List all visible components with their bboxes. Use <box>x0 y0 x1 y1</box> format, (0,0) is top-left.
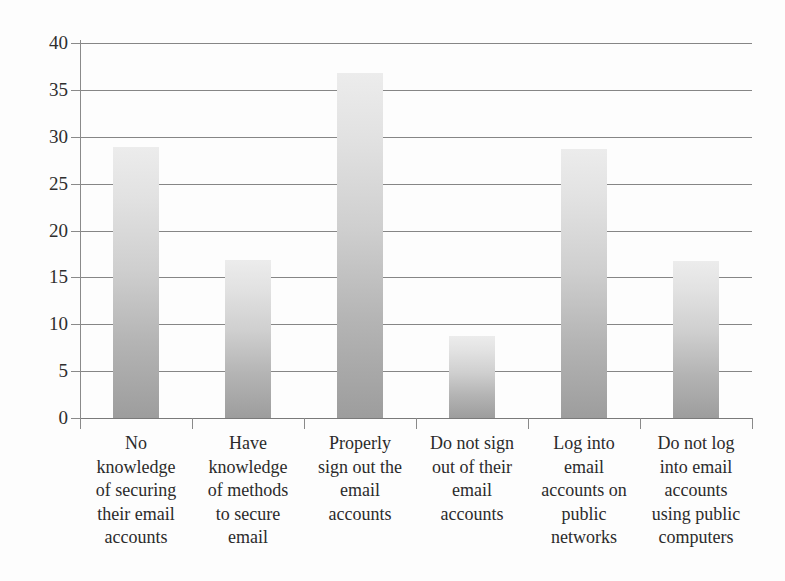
bar-chart: 0510152025303540 Noknowledgeof securingt… <box>0 0 785 581</box>
y-tick-15 <box>71 277 80 278</box>
x-axis-label-line: using public <box>640 503 752 527</box>
x-tick-1 <box>192 418 193 429</box>
bar-slot <box>192 43 304 418</box>
y-tick-25 <box>71 184 80 185</box>
x-axis-label-line: Do not log <box>640 432 752 456</box>
x-axis-label-line: of methods <box>192 479 304 503</box>
y-tick-0 <box>71 418 80 419</box>
y-tick-label-25: 25 <box>6 174 68 193</box>
y-tick-label-30: 30 <box>6 127 68 146</box>
y-tick-5 <box>71 371 80 372</box>
x-axis-label-line: computers <box>640 526 752 550</box>
y-tick-40 <box>71 43 80 44</box>
y-tick-label-40: 40 <box>6 33 68 52</box>
x-axis-ticks <box>80 418 752 430</box>
x-axis-label-line: email <box>416 479 528 503</box>
x-axis-label-line: Have <box>192 432 304 456</box>
y-tick-label-15: 15 <box>6 267 68 286</box>
x-axis-label-line: to secure <box>192 503 304 527</box>
x-tick-6 <box>752 418 753 429</box>
x-axis-label-line: accounts <box>304 503 416 527</box>
x-tick-4 <box>528 418 529 429</box>
bar-slot <box>80 43 192 418</box>
y-tick-label-20: 20 <box>6 221 68 240</box>
x-axis-label-line: into email <box>640 456 752 480</box>
x-axis-label-line: Properly <box>304 432 416 456</box>
bar-slot <box>640 43 752 418</box>
x-axis-label-line: sign out the <box>304 456 416 480</box>
x-axis-label-line: of securing <box>80 479 192 503</box>
x-tick-2 <box>304 418 305 429</box>
x-axis-label-line: No <box>80 432 192 456</box>
y-tick-20 <box>71 231 80 232</box>
bar <box>225 260 271 418</box>
bar-slot <box>416 43 528 418</box>
x-axis-label: Properlysign out theemailaccounts <box>304 432 416 526</box>
x-axis-label-line: Do not sign <box>416 432 528 456</box>
x-axis-label-line: knowledge <box>192 456 304 480</box>
bar <box>673 261 719 419</box>
x-axis-label: Haveknowledgeof methodsto secureemail <box>192 432 304 550</box>
y-axis-labels: 0510152025303540 <box>0 0 68 581</box>
x-axis-labels: Noknowledgeof securingtheir emailaccount… <box>80 432 752 562</box>
x-axis-label-line: accounts <box>416 503 528 527</box>
y-tick-label-0: 0 <box>6 408 68 427</box>
x-axis-label-line: their email <box>80 503 192 527</box>
bar <box>337 73 383 418</box>
bars-layer <box>80 43 752 418</box>
x-axis-label-line: knowledge <box>80 456 192 480</box>
x-axis-label-line: accounts <box>640 479 752 503</box>
bar-slot <box>304 43 416 418</box>
x-axis-label-line: out of their <box>416 456 528 480</box>
x-tick-5 <box>640 418 641 429</box>
x-axis-label-line: Log into <box>528 432 640 456</box>
x-axis-label-line: email <box>304 479 416 503</box>
y-tick-label-10: 10 <box>6 314 68 333</box>
y-tick-30 <box>71 137 80 138</box>
x-axis-label: Log intoemailaccounts onpublicnetworks <box>528 432 640 550</box>
x-axis-label-line: email <box>192 526 304 550</box>
bar-slot <box>528 43 640 418</box>
x-axis-label: Do not loginto emailaccountsusing public… <box>640 432 752 550</box>
x-axis-label-line: accounts on <box>528 479 640 503</box>
x-axis-label-line: networks <box>528 526 640 550</box>
y-tick-35 <box>71 90 80 91</box>
y-tick-label-5: 5 <box>6 361 68 380</box>
x-tick-0 <box>80 418 81 429</box>
x-axis-label-line: accounts <box>80 526 192 550</box>
y-tick-label-35: 35 <box>6 80 68 99</box>
bar <box>449 336 495 419</box>
y-tick-10 <box>71 324 80 325</box>
x-axis-label: Do not signout of theiremailaccounts <box>416 432 528 526</box>
x-axis-label-line: email <box>528 456 640 480</box>
x-tick-3 <box>416 418 417 429</box>
x-axis-label-line: public <box>528 503 640 527</box>
x-axis-label: Noknowledgeof securingtheir emailaccount… <box>80 432 192 550</box>
bar <box>561 149 607 418</box>
bar <box>113 147 159 418</box>
